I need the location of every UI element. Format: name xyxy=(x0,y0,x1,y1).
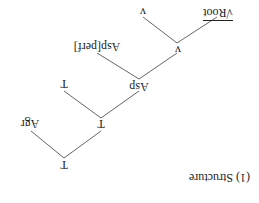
node-root: √Root xyxy=(203,7,233,19)
edge-t1-t2 xyxy=(64,91,101,118)
node-asp-perf: Asp[perf] xyxy=(74,41,121,53)
node-agr: Agr xyxy=(21,118,40,130)
edge-t0-t1 xyxy=(64,131,101,158)
edge-v0-root xyxy=(177,17,217,43)
tree-edges xyxy=(0,0,259,203)
node-asp: Asp xyxy=(129,81,148,93)
edge-asp-v0 xyxy=(139,53,177,79)
node-v-head: v xyxy=(140,6,146,18)
syntax-tree-figure: (1) Structure T Agr T T Asp Asp[perf] v … xyxy=(0,0,259,203)
edge-t0-agr xyxy=(31,131,64,158)
edge-t1-asp xyxy=(101,91,139,118)
edge-asp-aspperf xyxy=(97,53,139,79)
node-t-head: T xyxy=(60,78,67,90)
node-v: v xyxy=(175,44,181,56)
node-t-root: T xyxy=(60,159,67,171)
edge-v0-v1 xyxy=(143,17,177,43)
node-t-bar: T xyxy=(97,118,104,130)
